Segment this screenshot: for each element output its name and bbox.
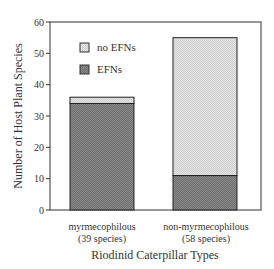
chart-canvas: 0102030405060 no EFNs EFNs myrmecophilou… <box>0 0 274 269</box>
y-tick-label: 50 <box>34 48 44 59</box>
bar-segment-no-efns <box>70 97 134 103</box>
category-label-non-myrmecophilous: non-myrmecophilous <box>163 221 249 232</box>
legend-label-efns: EFNs <box>97 63 122 75</box>
y-tick-label: 0 <box>39 205 44 216</box>
y-tick-label: 20 <box>34 142 44 153</box>
y-tick-label: 30 <box>34 111 44 122</box>
bar-segment-efns <box>70 103 134 210</box>
bar-segment-no-efns <box>173 38 237 176</box>
y-axis-title: Number of Host Plant Species <box>11 43 25 189</box>
y-tick-label: 60 <box>34 17 44 28</box>
bars <box>70 38 237 210</box>
category-sublabel-myrmecophilous: (39 species) <box>78 233 126 245</box>
category-sublabel-non-myrmecophilous: (58 species) <box>182 233 230 245</box>
x-axis-title: Riodinid Caterpillar Types <box>91 248 219 262</box>
y-tick-label: 10 <box>34 173 44 184</box>
legend-label-no-efns: no EFNs <box>97 41 136 53</box>
legend: no EFNs EFNs <box>80 41 136 75</box>
y-axis: 0102030405060 <box>34 17 50 216</box>
y-tick-label: 40 <box>34 79 44 90</box>
category-label-myrmecophilous: myrmecophilous <box>68 221 135 232</box>
bar-segment-efns <box>173 176 237 210</box>
legend-swatch-no-efns <box>80 43 89 52</box>
legend-swatch-efns <box>80 65 89 74</box>
